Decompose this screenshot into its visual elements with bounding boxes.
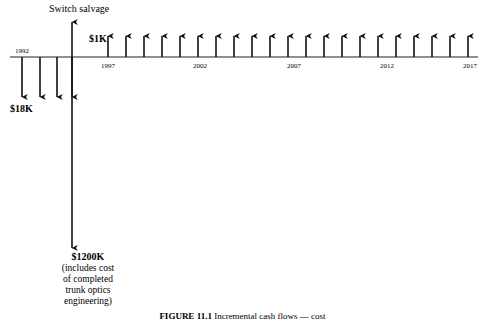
year-tick-label: 2002 [193,62,208,70]
figure-caption-body: Incremental cash flows — cost [212,311,326,321]
year-label-group: 199219972002200720122017 [15,47,478,70]
major-outflow-label-line: $1200K [72,251,105,262]
cash-flow-diagram: 199219972002200720122017 $18K $1200K(inc… [0,0,485,321]
year-tick-label: 1992 [15,47,30,55]
salvage-text-label: Switch salvage [49,3,110,14]
figure-caption-prefix: FIGURE 11.1 [159,311,212,321]
year-tick-label: 2017 [463,62,478,70]
major-outflow-label: $1200K(includes costof completedtrunk op… [62,251,115,307]
major-outflow-label-line: (includes cost [62,263,115,274]
year-tick-label: 2007 [287,62,302,70]
cash-flow-figure: 199219972002200720122017 $18K $1200K(inc… [0,0,485,321]
outflow-amount-label: $18K [10,103,33,114]
outflow-arrow-group [22,57,72,97]
inflow-amount-label: $1K [89,33,107,44]
year-tick-label: 2012 [380,62,395,70]
major-outflow-label-line: of completed [63,274,113,284]
year-tick-label: 1997 [101,62,116,70]
inflow-arrow-group [108,36,468,57]
major-outflow-label-line: engineering) [64,296,112,307]
major-outflow-label-line: trunk optics [65,285,110,295]
figure-caption: FIGURE 11.1 Incremental cash flows — cos… [159,311,326,321]
salvage-group: Switch salvage [49,3,110,57]
